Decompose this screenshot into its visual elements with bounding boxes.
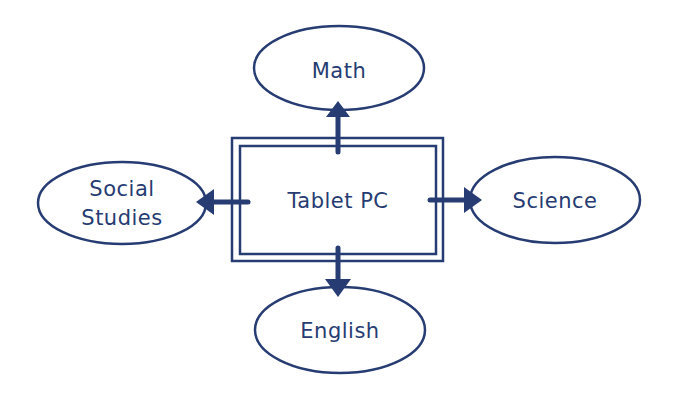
center-box: Tablet PC (232, 138, 443, 261)
math-label: Math (312, 59, 367, 83)
center-label: Tablet PC (286, 189, 388, 213)
diagram-canvas: Tablet PC Math Social Studies Science En… (0, 0, 673, 394)
node-math: Math (254, 26, 424, 110)
node-english: English (255, 287, 425, 373)
science-label: Science (513, 189, 598, 213)
social-studies-label-line2: Studies (81, 206, 162, 230)
node-science: Science (470, 157, 640, 243)
social-studies-ellipse (38, 162, 206, 244)
node-social-studies: Social Studies (38, 162, 206, 244)
social-studies-label-line1: Social (89, 177, 154, 201)
concept-map: Tablet PC Math Social Studies Science En… (0, 0, 673, 394)
english-label: English (300, 319, 379, 343)
